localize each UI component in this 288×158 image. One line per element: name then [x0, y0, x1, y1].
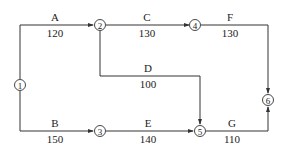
activity-f-duration: 130: [222, 27, 239, 39]
activity-e-duration: 140: [140, 133, 157, 145]
activity-c-name: C: [143, 11, 150, 23]
activity-a-name: A: [51, 11, 59, 23]
edge-g: [206, 107, 268, 131]
svg-text:6: 6: [266, 96, 271, 106]
node-3: 3: [95, 126, 106, 137]
svg-text:5: 5: [198, 127, 203, 137]
activity-c-duration: 130: [139, 27, 156, 39]
svg-text:2: 2: [98, 21, 103, 31]
activity-g-duration: 110: [224, 133, 241, 145]
activity-a-duration: 120: [47, 27, 64, 39]
activity-d-duration: 100: [140, 78, 157, 90]
activity-f-name: F: [227, 11, 233, 23]
svg-text:3: 3: [98, 127, 103, 137]
node-4: 4: [190, 20, 201, 31]
activity-b-duration: 150: [47, 133, 64, 145]
activity-g-name: G: [228, 117, 236, 129]
node-5: 5: [195, 126, 206, 137]
activity-d-name: D: [144, 62, 152, 74]
node-6: 6: [263, 95, 274, 106]
activity-e-name: E: [145, 117, 152, 129]
svg-text:4: 4: [193, 21, 198, 31]
node-2: 2: [95, 20, 106, 31]
activity-b-name: B: [51, 117, 58, 129]
network-diagram: 1 2 3 4 5 6 A 120 B 150 C 130 D 100 E 14…: [0, 0, 288, 158]
node-1: 1: [15, 80, 26, 91]
svg-text:1: 1: [18, 81, 23, 91]
